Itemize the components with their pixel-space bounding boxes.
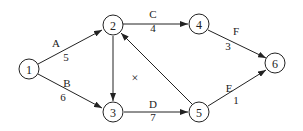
node-3: 3	[103, 102, 123, 122]
svg-text:5: 5	[196, 106, 202, 120]
duration-label-c: 4	[150, 22, 156, 34]
node-4: 4	[189, 14, 209, 34]
duration-label-e: 1	[233, 94, 239, 106]
activity-label-e: E	[226, 82, 233, 94]
svg-text:1: 1	[26, 63, 32, 77]
svg-text:6: 6	[272, 57, 278, 71]
node-1: 1	[19, 59, 39, 79]
duration-label-d: 7	[150, 111, 156, 123]
svg-text:2: 2	[110, 19, 116, 33]
activity-label-b: B	[63, 77, 70, 89]
svg-text:4: 4	[196, 18, 202, 32]
edge-5-2	[121, 33, 192, 104]
duration-label-f: 3	[225, 40, 231, 52]
activity-label-c: C	[149, 8, 156, 20]
duration-label-b: 6	[60, 91, 66, 103]
edge-1-2	[38, 30, 102, 64]
activity-label-a: A	[52, 37, 60, 49]
network-diagram: 1 2 3 4 5 6 A 5 B 6 C 4 D 7 E 1 F 3 ×	[0, 0, 303, 131]
svg-text:3: 3	[110, 106, 116, 120]
duration-label-a: 5	[63, 51, 69, 63]
node-5: 5	[189, 102, 209, 122]
node-2: 2	[103, 15, 123, 35]
cross-mark: ×	[132, 71, 139, 85]
activity-label-f: F	[233, 25, 239, 37]
activity-label-d: D	[149, 98, 157, 110]
node-6: 6	[265, 53, 285, 73]
